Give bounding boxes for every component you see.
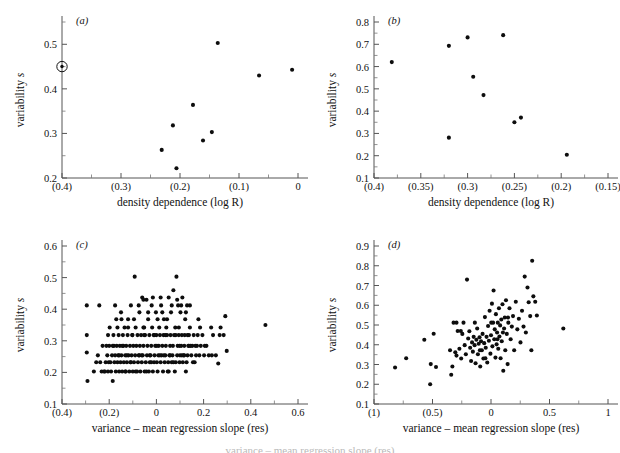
data-point bbox=[186, 333, 190, 337]
data-point bbox=[404, 356, 408, 360]
panel-b-plot: (0.4)(0.35)(0.3)(0.25)(0.2)(0.15)0.10.20… bbox=[310, 0, 620, 226]
data-point bbox=[167, 369, 171, 373]
data-point bbox=[125, 353, 129, 357]
data-point bbox=[497, 306, 501, 310]
data-point bbox=[193, 344, 197, 348]
data-point bbox=[457, 347, 461, 351]
data-point bbox=[173, 325, 177, 329]
panel-d-ytick-2: 0.3 bbox=[356, 360, 369, 371]
panel-b-xtick-5: (0.15) bbox=[595, 181, 620, 193]
panel-b: (0.4)(0.35)(0.3)(0.25)(0.2)(0.15)0.10.20… bbox=[310, 0, 620, 226]
panel-a-plot: (0.4)(0.3)(0.2)(0.1)00.20.30.40.5(a)dens… bbox=[0, 0, 310, 226]
panel-c-label: (c) bbox=[76, 239, 88, 251]
data-point bbox=[171, 360, 175, 364]
panel-a-xtick-4: 0 bbox=[295, 181, 300, 192]
panel-c-ytick-4: 0.5 bbox=[44, 273, 57, 284]
data-point bbox=[115, 325, 119, 329]
data-point bbox=[170, 303, 174, 307]
data-point bbox=[159, 303, 163, 307]
data-point bbox=[181, 360, 185, 364]
data-point bbox=[473, 321, 477, 325]
data-point bbox=[156, 369, 160, 373]
data-point bbox=[142, 333, 146, 337]
data-point bbox=[210, 353, 214, 357]
panel-b-xtick-3: (0.25) bbox=[502, 181, 528, 193]
data-point bbox=[501, 33, 505, 37]
data-point bbox=[488, 309, 492, 313]
data-point bbox=[174, 275, 178, 279]
data-point bbox=[60, 65, 63, 68]
panel-c-xtick-2: 0 bbox=[154, 407, 159, 418]
data-point bbox=[85, 303, 89, 307]
data-point bbox=[137, 310, 141, 314]
data-point bbox=[152, 353, 156, 357]
data-point bbox=[475, 327, 479, 331]
data-point bbox=[148, 353, 152, 357]
data-point bbox=[257, 73, 261, 77]
data-point bbox=[164, 325, 168, 329]
data-point bbox=[107, 360, 111, 364]
data-point bbox=[182, 344, 186, 348]
panel-b-ytick-0: 0.1 bbox=[356, 173, 369, 184]
data-point bbox=[150, 325, 154, 329]
panel-d-xtick-2: 0 bbox=[488, 407, 493, 418]
panel-b-ytick-3: 0.4 bbox=[356, 106, 370, 117]
data-point bbox=[474, 361, 478, 365]
data-point bbox=[163, 360, 167, 364]
data-point bbox=[499, 356, 503, 360]
data-point bbox=[506, 321, 510, 325]
data-point bbox=[495, 342, 499, 346]
data-point bbox=[290, 68, 294, 72]
data-point bbox=[459, 357, 463, 361]
data-point bbox=[486, 324, 490, 328]
data-point bbox=[180, 295, 184, 299]
panel-b-xtick-1: (0.35) bbox=[408, 181, 434, 193]
data-point bbox=[501, 330, 505, 334]
data-point bbox=[481, 332, 485, 336]
panel-a-xtick-2: (0.2) bbox=[170, 181, 191, 193]
panel-b-ytick-2: 0.3 bbox=[356, 128, 369, 139]
data-point bbox=[459, 329, 463, 333]
data-point bbox=[147, 333, 151, 337]
data-point bbox=[517, 317, 521, 321]
data-point bbox=[198, 325, 202, 329]
data-point bbox=[510, 325, 514, 329]
data-point bbox=[487, 339, 491, 343]
data-point bbox=[469, 359, 473, 363]
data-point bbox=[506, 315, 510, 319]
data-point bbox=[519, 116, 523, 120]
data-point bbox=[92, 369, 96, 373]
data-point bbox=[535, 313, 539, 317]
panel-a-ytick-3: 0.5 bbox=[44, 39, 57, 50]
data-point bbox=[165, 317, 169, 321]
data-point bbox=[111, 344, 115, 348]
data-point bbox=[476, 352, 480, 356]
data-point bbox=[126, 333, 130, 337]
data-point bbox=[429, 362, 433, 366]
panel-c-ytick-5: 0.6 bbox=[44, 241, 57, 252]
data-point bbox=[511, 314, 515, 318]
data-point bbox=[393, 365, 397, 369]
data-point bbox=[500, 339, 504, 343]
data-point bbox=[173, 369, 177, 373]
data-point bbox=[155, 344, 159, 348]
data-point bbox=[174, 333, 178, 337]
data-point bbox=[133, 275, 137, 279]
data-point bbox=[478, 348, 482, 352]
data-point bbox=[196, 333, 200, 337]
data-point bbox=[146, 317, 150, 321]
data-point bbox=[474, 338, 478, 342]
panel-c-ytick-2: 0.3 bbox=[44, 336, 57, 347]
panel-c-xtick-1: (0.2) bbox=[99, 407, 120, 419]
data-point bbox=[109, 369, 113, 373]
data-point bbox=[463, 343, 467, 347]
panel-c-plot: (0.4)(0.2)00.20.40.60.10.20.30.40.50.6(c… bbox=[0, 226, 310, 453]
panel-d-ytick-7: 0.8 bbox=[356, 261, 369, 272]
data-point bbox=[473, 343, 477, 347]
data-point bbox=[114, 317, 118, 321]
data-point bbox=[123, 369, 127, 373]
data-point bbox=[97, 303, 101, 307]
panel-d-label: (d) bbox=[388, 239, 401, 251]
data-point bbox=[520, 309, 524, 313]
data-point bbox=[222, 333, 226, 337]
